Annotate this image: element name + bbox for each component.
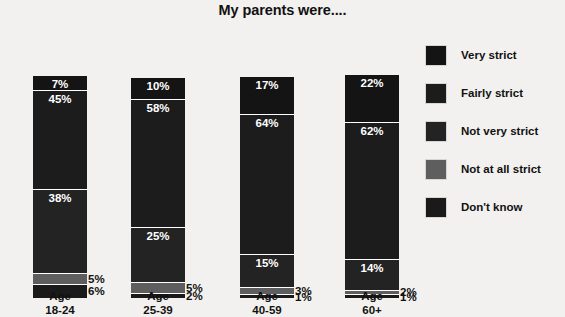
segment-value-label: 14% (345, 262, 399, 275)
legend-swatch-icon (425, 121, 447, 142)
bar-segment[interactable]: 64% (240, 115, 294, 256)
segment-value-label: 10% (131, 80, 185, 93)
chart-container: My parents were.... 7%45%38%5%6%10%58%25… (0, 0, 565, 317)
axis-label-line2: 18-24 (21, 303, 99, 317)
legend-swatch-icon (425, 159, 447, 180)
segment-value-label: 25% (131, 230, 185, 243)
legend-item-label: Fairly strict (461, 87, 523, 99)
bar-segment[interactable]: 25% (131, 228, 185, 283)
legend-item-label: Not very strict (461, 125, 538, 137)
bar-segment[interactable]: 17% (240, 77, 294, 114)
axis-label-line2: 25-39 (119, 303, 197, 317)
axis-group-label: Age60+ (333, 289, 411, 317)
bar-segment[interactable]: 62% (345, 123, 399, 259)
axis-label-line1: Age (333, 289, 411, 303)
axis-label-line2: 40-59 (228, 303, 306, 317)
legend-swatch-icon (425, 45, 447, 66)
legend-item[interactable]: Not very strict (425, 112, 565, 150)
bar-stack[interactable]: 22%62%14%2%1% (345, 75, 399, 298)
legend-item-label: Not at all strict (461, 163, 541, 175)
plot-area: 7%45%38%5%6%10%58%25%5%2%17%64%15%3%1%22… (0, 0, 420, 317)
axis-label-line2: 60+ (333, 303, 411, 317)
bar-segment[interactable]: 58% (131, 100, 185, 228)
segment-value-label: 62% (345, 125, 399, 138)
segment-value-label: 58% (131, 102, 185, 115)
legend-item[interactable]: Don't know (425, 188, 565, 226)
bar-segment[interactable]: 45% (33, 91, 87, 190)
bar-stack[interactable]: 7%45%38%5%6% (33, 76, 87, 298)
axis-group-label: Age25-39 (119, 289, 197, 317)
bar-segment[interactable]: 22% (345, 75, 399, 123)
segment-value-label: 45% (33, 93, 87, 106)
bar-stack[interactable]: 17%64%15%3%1% (240, 77, 294, 298)
axis-label-line1: Age (119, 289, 197, 303)
legend-item-label: Don't know (461, 201, 523, 213)
bar-segment[interactable]: 38% (33, 190, 87, 274)
segment-value-label: 17% (240, 79, 294, 92)
axis-label-line1: Age (228, 289, 306, 303)
axis-group-label: Age18-24 (21, 289, 99, 317)
segment-value-label: 7% (33, 78, 87, 91)
segment-value-label: 22% (345, 77, 399, 90)
axis-label-line1: Age (21, 289, 99, 303)
legend-item[interactable]: Not at all strict (425, 150, 565, 188)
chart-legend: Very strictFairly strictNot very strictN… (425, 36, 565, 226)
segment-value-label: 64% (240, 117, 294, 130)
segment-value-label: 5% (88, 273, 105, 285)
bar-segment[interactable]: 14% (345, 260, 399, 291)
bar-segment[interactable]: 10% (131, 78, 185, 100)
legend-item[interactable]: Fairly strict (425, 74, 565, 112)
segment-value-label: 15% (240, 257, 294, 270)
bar-segment[interactable]: 5% (33, 274, 87, 285)
bar-segment[interactable]: 15% (240, 255, 294, 288)
legend-swatch-icon (425, 197, 447, 218)
segment-value-label: 38% (33, 192, 87, 205)
legend-swatch-icon (425, 83, 447, 104)
axis-group-label: Age40-59 (228, 289, 306, 317)
legend-item[interactable]: Very strict (425, 36, 565, 74)
bar-segment[interactable]: 7% (33, 76, 87, 91)
bar-stack[interactable]: 10%58%25%5%2% (131, 78, 185, 298)
legend-item-label: Very strict (461, 49, 517, 61)
